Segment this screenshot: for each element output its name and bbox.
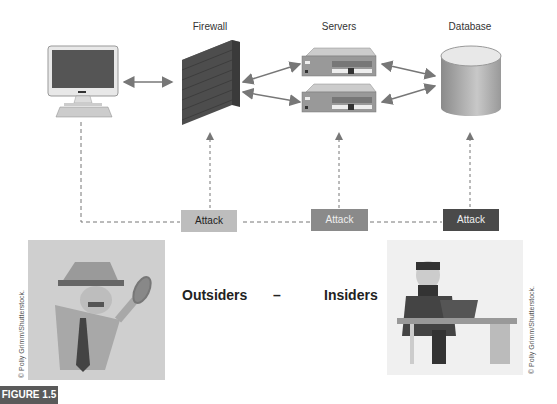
server-icon	[302, 48, 376, 76]
database-label: Database	[440, 21, 500, 32]
photo-credit-left: © Polly Grimm/Shutterstock.	[18, 290, 25, 378]
figure-label: FIGURE 1.5	[0, 386, 58, 404]
photo-credit-right: © Polly Grimm/Shutterstock.	[528, 286, 535, 374]
dash-separator: –	[273, 287, 281, 303]
attack-box-outsider: Attack	[181, 210, 237, 232]
server-icon	[302, 84, 376, 112]
firewall-icon	[182, 40, 240, 125]
computer-icon	[48, 46, 118, 117]
firewall-label: Firewall	[180, 21, 240, 32]
servers-label: Servers	[309, 21, 369, 32]
insiders-label: Insiders	[324, 287, 378, 303]
businessman-illustration	[387, 240, 523, 375]
detective-illustration	[28, 240, 165, 380]
network-diagram	[0, 0, 557, 404]
attack-box-insider: Attack	[443, 209, 499, 231]
attack-box-servers: Attack	[311, 209, 368, 231]
database-icon	[441, 46, 501, 116]
outsiders-label: Outsiders	[182, 287, 247, 303]
